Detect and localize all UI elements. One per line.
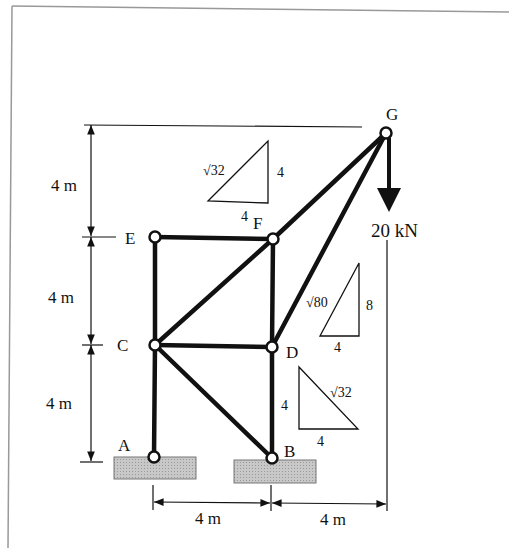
joint-b	[267, 453, 278, 464]
member-ef	[155, 237, 273, 239]
node-label-d: D	[286, 343, 298, 362]
member-cd	[155, 345, 272, 347]
load-label: 20 kN	[371, 220, 418, 241]
top-reference-line	[84, 125, 362, 127]
svg-text:√32: √32	[330, 385, 352, 400]
node-label-c: C	[117, 336, 128, 355]
slope-triangle-cb: √32 4 4	[281, 367, 358, 449]
joint-a	[149, 452, 160, 463]
member-ac	[154, 345, 155, 457]
member-cf	[155, 239, 273, 345]
member-fd	[272, 239, 273, 347]
member-cb	[155, 345, 272, 458]
node-label-g: G	[386, 105, 398, 124]
svg-text:4: 4	[241, 209, 248, 224]
dim-label-top: 4 m	[51, 176, 77, 195]
joint-c	[150, 340, 161, 351]
node-label-a: A	[118, 436, 131, 455]
svg-text:4: 4	[277, 165, 284, 180]
node-label-f: F	[253, 214, 262, 233]
svg-text:4: 4	[334, 340, 341, 355]
joint-d	[267, 342, 278, 353]
member-fg	[273, 133, 386, 239]
slope-triangle-fg: √32 4 4	[203, 141, 284, 224]
member-dg	[272, 133, 386, 347]
arrow-down-icon	[377, 188, 401, 212]
vertical-dimensions	[80, 125, 116, 462]
svg-text:4: 4	[281, 398, 288, 413]
node-label-b: B	[284, 442, 295, 461]
joint-e	[150, 232, 161, 243]
joint-g	[381, 128, 392, 139]
svg-text:√80: √80	[306, 295, 328, 310]
dim-label-ab: 4 m	[195, 509, 221, 528]
node-label-e: E	[125, 229, 135, 248]
dim-label-bottom: 4 m	[46, 394, 72, 413]
svg-text:8: 8	[366, 298, 373, 313]
dim-label-middle: 4 m	[48, 288, 74, 307]
load-arrow	[377, 138, 401, 212]
dim-label-bg: 4 m	[320, 510, 346, 529]
joint-f	[268, 234, 279, 245]
truss-diagram: A B C D E F G 4 m 4 m 4 m 4 m 4 m 20 kN …	[0, 0, 509, 548]
truss-members	[154, 133, 386, 458]
svg-text:√32: √32	[203, 163, 225, 178]
svg-text:4: 4	[317, 434, 324, 449]
slope-triangle-dg: √80 8 4	[306, 263, 373, 355]
